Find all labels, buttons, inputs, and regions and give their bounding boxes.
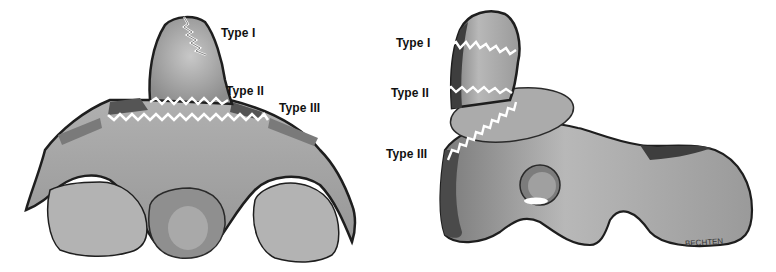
label-type-2-anterior: Type II <box>226 84 264 98</box>
anterior-view <box>26 17 355 262</box>
diagram-canvas <box>0 0 776 272</box>
label-type-3-lateral: Type III <box>386 147 427 161</box>
fracture-diagram: Type I Type II Type III Type I Type II T… <box>0 0 776 272</box>
label-type-2-lateral: Type II <box>391 86 429 100</box>
label-type-1-lateral: Type I <box>396 36 430 50</box>
right-lateral-mass <box>254 183 339 262</box>
label-type-1-anterior: Type I <box>221 26 255 40</box>
label-type-3-anterior: Type III <box>279 101 320 115</box>
lateral-view <box>440 11 752 246</box>
